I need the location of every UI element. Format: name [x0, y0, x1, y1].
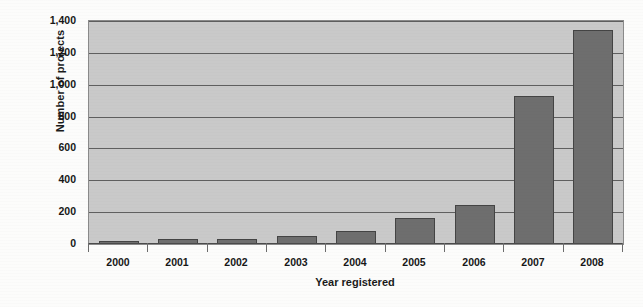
- plot-area: [88, 20, 624, 245]
- x-axis-tick-label: 2004: [325, 256, 385, 268]
- x-axis-tick-label: 2008: [562, 256, 622, 268]
- x-axis-tick-label: 2007: [503, 256, 563, 268]
- x-axis-title: Year registered: [88, 276, 622, 288]
- gridline: [89, 85, 623, 86]
- y-axis-tick-label: 1,200: [30, 47, 76, 57]
- x-axis-line: [88, 243, 622, 244]
- x-axis-tick-mark: [563, 243, 564, 252]
- x-axis-tick-mark: [622, 243, 623, 252]
- bar: [573, 30, 613, 244]
- bar: [455, 205, 495, 244]
- x-axis-tick-mark: [503, 243, 504, 252]
- bar: [514, 96, 554, 244]
- y-axis-tick-labels: 02004006008001,0001,2001,400: [30, 0, 76, 307]
- x-axis-tick-label: 2006: [444, 256, 504, 268]
- x-axis-tick-label: 2000: [88, 256, 148, 268]
- y-axis-tick-label: 1,000: [30, 79, 76, 89]
- x-axis-tick-mark: [444, 243, 445, 252]
- x-axis-tick-mark: [385, 243, 386, 252]
- x-axis-tick-label: 2005: [384, 256, 444, 268]
- gridline: [89, 53, 623, 54]
- y-axis-tick-label: 0: [30, 238, 76, 248]
- x-axis-tick-mark: [88, 243, 89, 252]
- bar: [395, 218, 435, 244]
- y-axis-tick-label: 600: [30, 142, 76, 152]
- y-axis-tick-label: 200: [30, 206, 76, 216]
- gridline: [89, 21, 623, 22]
- x-axis-tick-mark: [207, 243, 208, 252]
- x-axis-tick-label: 2002: [206, 256, 266, 268]
- x-axis-tick-mark: [147, 243, 148, 252]
- chart-page: Number of projects 02004006008001,0001,2…: [0, 0, 643, 307]
- x-axis-tick-mark: [325, 243, 326, 252]
- x-axis-tick-label: 2003: [266, 256, 326, 268]
- y-axis-tick-label: 800: [30, 111, 76, 121]
- x-axis-tick-mark: [266, 243, 267, 252]
- x-axis-tick-label: 2001: [147, 256, 207, 268]
- y-axis-tick-label: 400: [30, 174, 76, 184]
- y-axis-tick-label: 1,400: [30, 15, 76, 25]
